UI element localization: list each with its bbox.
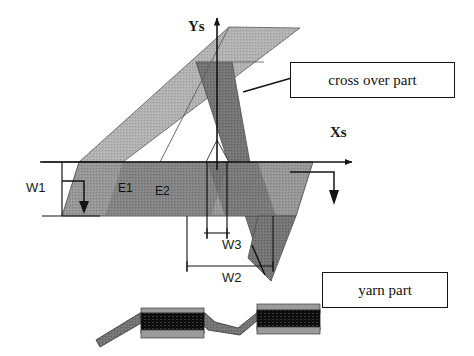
- cross-section-view: [96, 304, 320, 347]
- callout-cross-over-label: cross over part: [328, 72, 416, 89]
- dimension-label-w1: W1: [26, 180, 46, 195]
- element-label-e1: E1: [118, 181, 133, 195]
- axis-label-xs: Xs: [330, 124, 347, 141]
- axis-label-ys: Ys: [188, 18, 205, 35]
- callout-yarn-label: yarn part: [358, 282, 412, 299]
- dimension-label-w3: W3: [222, 237, 242, 252]
- callout-cross-over-part: cross over part: [290, 62, 455, 98]
- callout-yarn-part: yarn part: [322, 272, 448, 308]
- figure-canvas: Ys Xs W1 W3 W2 E1 E2 cross over part yar…: [0, 0, 474, 356]
- dimension-label-w2: W2: [222, 270, 242, 285]
- element-label-e2: E2: [155, 184, 170, 198]
